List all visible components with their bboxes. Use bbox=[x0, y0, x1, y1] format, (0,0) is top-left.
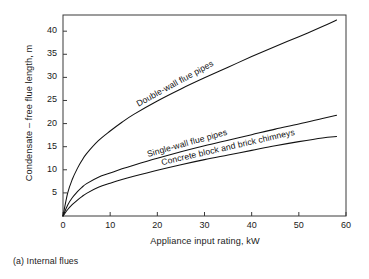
series-curve bbox=[63, 115, 337, 216]
y-axis-tick-marks bbox=[63, 31, 67, 193]
x-tick-label: 20 bbox=[143, 221, 171, 230]
y-tick-label: 40 bbox=[33, 26, 57, 35]
x-tick-label: 30 bbox=[191, 221, 219, 230]
x-tick-label: 40 bbox=[238, 221, 266, 230]
x-tick-label: 10 bbox=[96, 221, 124, 230]
x-tick-label: 0 bbox=[49, 221, 77, 230]
y-tick-label: 10 bbox=[33, 165, 57, 174]
figure-caption: (a) Internal flues bbox=[13, 256, 78, 266]
y-tick-label: 20 bbox=[33, 119, 57, 128]
curve-labels: Double-wall flue pipesSingle-wall flue p… bbox=[135, 58, 296, 167]
y-tick-label: 25 bbox=[33, 95, 57, 104]
y-tick-label: 30 bbox=[33, 72, 57, 81]
x-axis-title: Appliance input rating, kW bbox=[63, 236, 347, 246]
x-axis-tick-marks bbox=[63, 212, 346, 216]
figure-container: Condensate – free flue length, m Double-… bbox=[0, 0, 369, 279]
series-inline-label: Double-wall flue pipes bbox=[135, 58, 215, 108]
y-tick-label: 35 bbox=[33, 49, 57, 58]
x-tick-label: 60 bbox=[332, 221, 360, 230]
plot-frame bbox=[63, 15, 346, 216]
series-curve bbox=[63, 20, 337, 216]
y-tick-label: 5 bbox=[33, 188, 57, 197]
x-tick-label: 50 bbox=[285, 221, 313, 230]
data-curves bbox=[63, 20, 337, 216]
y-tick-label: 15 bbox=[33, 142, 57, 151]
